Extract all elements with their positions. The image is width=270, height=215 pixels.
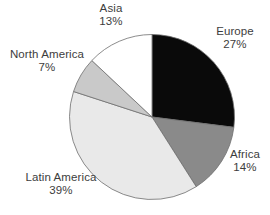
label-asia: Asia 13% — [81, 2, 141, 28]
label-latin-america-name: Latin America — [18, 171, 104, 184]
pie-chart-figure: Asia 13% Europe 27% North America 7% Lat… — [0, 0, 270, 215]
label-africa: Africa 14% — [214, 148, 270, 174]
label-north-america-pct: 7% — [4, 61, 90, 74]
label-europe-name: Europe — [204, 25, 266, 38]
label-north-america: North America 7% — [4, 48, 90, 74]
label-africa-pct: 14% — [214, 161, 270, 174]
label-latin-america-pct: 39% — [18, 184, 104, 197]
label-europe-pct: 27% — [204, 38, 266, 51]
label-latin-america: Latin America 39% — [18, 171, 104, 197]
label-europe: Europe 27% — [204, 25, 266, 51]
label-africa-name: Africa — [214, 148, 270, 161]
label-asia-pct: 13% — [81, 15, 141, 28]
label-north-america-name: North America — [4, 48, 90, 61]
label-asia-name: Asia — [81, 2, 141, 15]
